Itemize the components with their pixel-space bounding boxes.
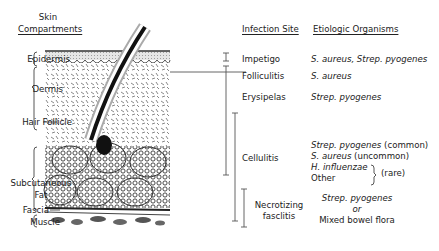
compartments-header-line1: Skin: [18, 12, 78, 22]
site-folliculitis: Folliculitis: [242, 71, 284, 81]
fascia-muscle-layer: [45, 208, 170, 226]
compartments-header: Compartments: [18, 24, 78, 34]
site-impetigo: Impetigo: [242, 54, 280, 64]
organism-rare-note: (rare): [381, 168, 405, 178]
site-necrotizing: Necrotizing: [248, 200, 310, 210]
organism-cellulitis-line3: H. influenzae: [311, 162, 368, 172]
site-erysipelas: Erysipelas: [242, 92, 286, 102]
site-fasclitis: fasclitis: [248, 211, 310, 221]
label-fat: Fat: [8, 190, 74, 200]
label-dermis: Dermis: [0, 84, 63, 94]
infection-site-header: Infection Site: [242, 24, 299, 34]
organism-necrotizing-line1: Strep. pyogenes: [310, 193, 404, 203]
organism-cellulitis-line1: Strep. pyogenes (common): [311, 140, 428, 150]
organism-folliculitis: S. aureus: [311, 71, 351, 81]
organism-cellulitis-line2: S. aureus (uncommon): [311, 151, 409, 161]
organisms-header: Etiologic Organisms: [313, 24, 398, 34]
organism-necrotizing-or: or: [310, 204, 404, 214]
organism-impetigo: S. aureus, Strep. pyogenes: [311, 54, 427, 64]
rare-brace: [371, 165, 376, 185]
label-subcutaneous: Subcutaneous: [8, 178, 74, 188]
organism-cellulitis-line4: Other: [311, 173, 335, 183]
label-epidermis: Epidermis: [0, 54, 70, 64]
infection-site-brackets: [170, 53, 247, 227]
label-fascia: Fascia: [0, 205, 49, 215]
site-cellulitis: Cellulitis: [242, 153, 279, 163]
organism-erysipelas: Strep. pyogenes: [311, 92, 381, 102]
label-muscle: Muscle: [0, 217, 60, 227]
label-hair-follicle: Hair Follicle: [0, 117, 72, 127]
organism-necrotizing-line3: Mixed bowel flora: [310, 215, 404, 225]
